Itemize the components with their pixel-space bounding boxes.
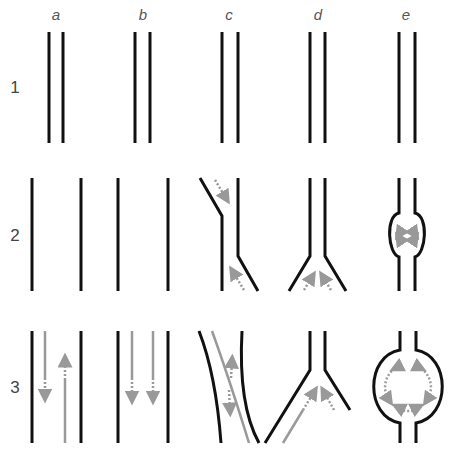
flow-arrow-icon bbox=[323, 277, 331, 290]
downward-arrow-icon bbox=[229, 390, 230, 410]
converging-arrow-icon bbox=[303, 392, 314, 410]
panel-1b bbox=[135, 32, 150, 143]
panel-1e bbox=[399, 32, 415, 143]
flow-arrow-icon bbox=[233, 272, 244, 290]
panel-1d bbox=[310, 32, 325, 143]
panel-2a bbox=[32, 178, 81, 291]
channel-development-diagram: a b c d e 1 2 3 bbox=[0, 0, 450, 454]
converging-arrow-icon bbox=[324, 392, 334, 410]
panel-2c bbox=[200, 178, 258, 291]
panel-3d bbox=[265, 331, 350, 443]
panel-1a bbox=[49, 32, 63, 143]
circulation-arrows-icon bbox=[399, 228, 415, 244]
panel-2d bbox=[289, 178, 346, 291]
panel-3c bbox=[199, 331, 259, 443]
panel-3e bbox=[374, 331, 443, 443]
flow-arrow-icon bbox=[304, 277, 312, 290]
diagram-canvas bbox=[0, 0, 450, 454]
circular-flow-arrows-icon bbox=[385, 365, 431, 411]
panel-1c bbox=[222, 32, 238, 143]
panel-3b bbox=[118, 331, 168, 443]
upward-arrow-icon bbox=[231, 361, 232, 378]
flow-arrow-icon bbox=[215, 180, 226, 198]
panel-2e bbox=[390, 178, 425, 291]
panel-2b bbox=[118, 178, 168, 291]
panel-3a bbox=[32, 331, 81, 443]
